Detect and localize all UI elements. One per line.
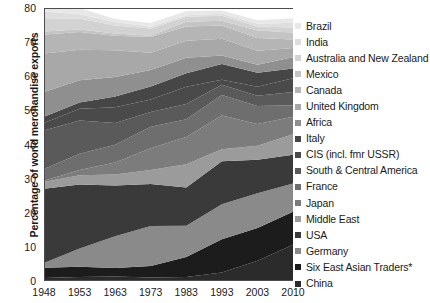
y-axis-tick-label: 20 <box>10 208 36 218</box>
legend-swatch-icon <box>295 55 301 61</box>
legend-swatch-icon <box>295 136 301 142</box>
legend-swatch-icon <box>295 216 301 222</box>
y-axis-tick-label: 50 <box>10 105 36 115</box>
x-axis-tick-label: 2003 <box>237 287 277 298</box>
x-axis-tick-label: 1993 <box>202 287 242 298</box>
legend-item[interactable]: China <box>295 276 430 292</box>
legend-item[interactable]: Africa <box>295 115 430 131</box>
legend-item[interactable]: India <box>295 34 430 50</box>
y-axis-tick-label: 80 <box>10 3 36 13</box>
legend-item[interactable]: France <box>295 179 430 195</box>
legend-item-label: France <box>306 181 338 192</box>
legend-item-label: Mexico <box>306 69 338 80</box>
legend-item-label: CIS (incl. fmr USSR) <box>306 149 399 160</box>
legend-swatch-icon <box>295 104 301 110</box>
legend-item[interactable]: Middle East <box>295 211 430 227</box>
legend-swatch-icon <box>295 200 301 206</box>
x-axis-tick-label: 1948 <box>24 287 64 298</box>
legend-item-label: USA <box>306 230 327 241</box>
legend-item[interactable]: Italy <box>295 131 430 147</box>
legend-swatch-icon <box>295 152 301 158</box>
legend-item[interactable]: South & Central America <box>295 163 430 179</box>
legend-swatch-icon <box>295 281 301 287</box>
x-axis-tick-label: 1973 <box>131 287 171 298</box>
chart-figure: Percentage of world merchandise exports … <box>0 0 430 303</box>
legend-item-label: Australia and New Zealand <box>306 53 428 64</box>
x-axis-tick-label: 1963 <box>95 287 135 298</box>
y-axis-tick-label: 60 <box>10 71 36 81</box>
legend-item-label: United Kingdom <box>306 101 379 112</box>
legend-item-label: Germany <box>306 246 348 257</box>
legend-item-label: Japan <box>306 198 334 209</box>
legend-swatch-icon <box>295 168 301 174</box>
legend-swatch-icon <box>295 87 301 93</box>
legend-swatch-icon <box>295 71 301 77</box>
legend-item-label: China <box>306 278 333 289</box>
stacked-area-plot <box>44 8 293 281</box>
y-axis-tick-label: 10 <box>10 242 36 252</box>
legend-item-label: Italy <box>306 133 325 144</box>
y-axis-tick-label: 30 <box>10 174 36 184</box>
y-axis-tick-label: 40 <box>10 140 36 150</box>
legend-item[interactable]: Australia and New Zealand <box>295 50 430 66</box>
legend-item[interactable]: Brazil <box>295 18 430 34</box>
y-axis-tick-labels: 01020304050607080 <box>10 0 36 303</box>
x-axis-tick-label: 1953 <box>60 287 100 298</box>
legend-item[interactable]: Six East Asian Traders* <box>295 259 430 275</box>
legend-swatch-icon <box>295 232 301 238</box>
x-axis-tick-label: 1983 <box>166 287 206 298</box>
legend-item[interactable]: CIS (incl. fmr USSR) <box>295 147 430 163</box>
x-axis-tick-labels: 19481953196319731983199320032010 <box>0 285 300 303</box>
legend-item-label: India <box>306 37 328 48</box>
legend-swatch-icon <box>295 120 301 126</box>
legend-item-label: Africa <box>306 117 332 128</box>
legend-swatch-icon <box>295 248 301 254</box>
legend-swatch-icon <box>295 184 301 190</box>
legend-item-label: Middle East <box>306 214 359 225</box>
legend-swatch-icon <box>295 39 301 45</box>
legend-item[interactable]: Japan <box>295 195 430 211</box>
chart-legend: BrazilIndiaAustralia and New ZealandMexi… <box>295 18 430 292</box>
legend-item-label: Brazil <box>306 21 331 32</box>
legend-item[interactable]: United Kingdom <box>295 98 430 114</box>
legend-item-label: South & Central America <box>306 165 418 176</box>
legend-swatch-icon <box>295 23 301 29</box>
legend-item-label: Six East Asian Traders* <box>306 262 412 273</box>
y-axis-tick-label: 70 <box>10 37 36 47</box>
legend-item[interactable]: USA <box>295 227 430 243</box>
legend-item-label: Canada <box>306 85 342 96</box>
legend-item[interactable]: Canada <box>295 82 430 98</box>
legend-item[interactable]: Mexico <box>295 66 430 82</box>
legend-item[interactable]: Germany <box>295 243 430 259</box>
legend-swatch-icon <box>295 264 301 270</box>
